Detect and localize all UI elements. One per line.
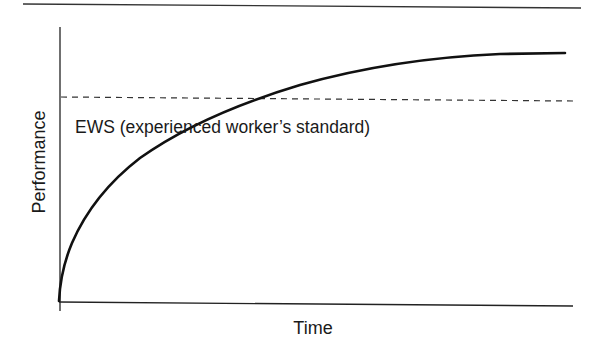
x-axis <box>59 302 573 306</box>
y-axis-label: Performance <box>29 110 50 213</box>
x-axis-label: Time <box>293 318 332 339</box>
ews-reference-line <box>61 97 573 101</box>
top-rule <box>23 4 581 8</box>
learning-curve-chart <box>0 0 595 361</box>
ews-reference-label: EWS (experienced worker’s standard) <box>75 117 370 138</box>
performance-curve <box>59 53 565 301</box>
